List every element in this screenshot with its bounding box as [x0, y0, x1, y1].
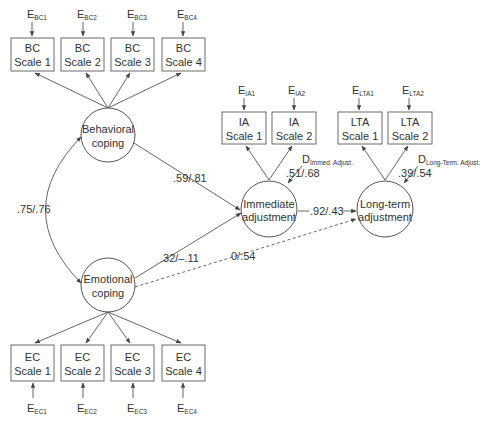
correlation-curve [46, 137, 82, 283]
lta-errors: ELTA1 ELTA2 [352, 84, 424, 110]
svg-text:.92/.43: .92/.43 [310, 205, 344, 217]
svg-text:EIA2: EIA2 [288, 84, 305, 97]
svg-text:adjustment: adjustment [358, 211, 412, 223]
bc-error-labels: EBC1 EBC2 EBC3 EBC4 [27, 8, 197, 21]
svg-text:0/.54: 0/.54 [231, 250, 255, 262]
behavioral-coping-latent: Behavioral coping [81, 108, 135, 162]
ec-indicator-boxes: EC Scale 1 EC Scale 2 EC Scale 3 EC Scal… [11, 345, 205, 381]
longterm-adjustment-latent: Long-term adjustment [357, 181, 413, 237]
svg-text:adjustment: adjustment [242, 211, 296, 223]
svg-text:Scale 3: Scale 3 [114, 56, 151, 68]
svg-text:Scale 2: Scale 2 [64, 365, 101, 377]
svg-text:BC: BC [25, 42, 40, 54]
path-ec-ia [135, 213, 241, 278]
ia-indicator-boxes: IA Scale 1 IA Scale 2 [222, 112, 316, 144]
svg-text:Scale 1: Scale 1 [14, 56, 51, 68]
error-label: EBC1 [27, 8, 47, 21]
svg-text:Scale 2: Scale 2 [276, 130, 313, 142]
error-label: EBC4 [177, 8, 197, 21]
svg-text:BC: BC [176, 42, 191, 54]
svg-text:EC: EC [176, 351, 191, 363]
svg-text:Emotional: Emotional [84, 273, 133, 285]
ia-errors: EIA1 EIA2 [238, 84, 305, 110]
immediate-adjustment-latent: Immediate adjustment [241, 181, 297, 237]
svg-text:EIA1: EIA1 [238, 84, 255, 97]
svg-text:EC: EC [25, 351, 40, 363]
svg-text:Scale 2: Scale 2 [64, 56, 101, 68]
disturbance-longterm: DLong-Term. Adjust. .39/.54 [398, 153, 480, 183]
svg-text:Scale 3: Scale 3 [114, 365, 151, 377]
svg-text:Scale 1: Scale 1 [342, 130, 379, 142]
svg-text:IA: IA [289, 116, 300, 128]
bc-error-arrows [32, 22, 183, 36]
svg-text:LTA: LTA [351, 116, 370, 128]
error-label: EEC1 [27, 402, 47, 415]
bc-indicator-boxes: BC Scale 1 BC Scale 2 BC Scale 3 BC Scal… [11, 38, 205, 71]
svg-text:.32/–.11: .32/–.11 [160, 252, 199, 264]
svg-text:Scale 4: Scale 4 [165, 365, 202, 377]
error-label: EEC2 [77, 402, 97, 415]
svg-text:Scale 1: Scale 1 [14, 365, 51, 377]
ec-error-labels: EEC1 EEC2 EEC3 EEC4 [27, 402, 197, 415]
svg-text:EC: EC [125, 351, 140, 363]
svg-text:ELTA2: ELTA2 [402, 84, 424, 97]
svg-text:Scale 4: Scale 4 [165, 56, 202, 68]
error-label: EEC4 [177, 402, 197, 415]
svg-text:BC: BC [75, 42, 90, 54]
ec-loading-arrows [35, 312, 181, 343]
svg-text:Behavioral: Behavioral [82, 123, 134, 135]
svg-text:BC: BC [125, 42, 140, 54]
disturbance-immediate: DImmed. Adjust. .51/.68 [286, 153, 353, 183]
emotional-coping-latent: Emotional coping [81, 258, 135, 312]
svg-text:.39/.54: .39/.54 [398, 167, 432, 179]
svg-text:IA: IA [239, 116, 250, 128]
svg-text:ELTA1: ELTA1 [352, 84, 374, 97]
ec-error-arrows [33, 383, 183, 398]
svg-text:.59/.81: .59/.81 [173, 172, 207, 184]
svg-text:DLong-Term. Adjust.: DLong-Term. Adjust. [418, 153, 480, 167]
svg-text:Long-term: Long-term [360, 198, 410, 210]
svg-text:DImmed. Adjust.: DImmed. Adjust. [302, 153, 353, 167]
lta-indicator-boxes: LTA Scale 1 LTA Scale 2 [338, 112, 432, 144]
svg-text:EC: EC [75, 351, 90, 363]
svg-text:LTA: LTA [401, 116, 420, 128]
svg-text:Scale 2: Scale 2 [392, 130, 429, 142]
bc-loading-arrows [35, 73, 181, 108]
svg-text:coping: coping [92, 137, 124, 149]
svg-text:.51/.68: .51/.68 [286, 167, 320, 179]
error-label: EEC3 [127, 402, 147, 415]
error-label: EBC3 [127, 8, 147, 21]
correlation-coef: .75/.76 [17, 203, 51, 215]
error-label: EBC2 [77, 8, 97, 21]
svg-text:Immediate: Immediate [243, 198, 294, 210]
svg-text:coping: coping [92, 287, 124, 299]
svg-text:Scale 1: Scale 1 [226, 130, 263, 142]
sem-diagram: EBC1 EBC2 EBC3 EBC4 BC Scale 1 BC Scale … [0, 0, 487, 423]
